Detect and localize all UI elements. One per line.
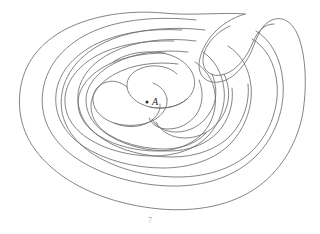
center-label-a: A — [151, 96, 159, 107]
labyrinth-figure: A 7 — [0, 0, 320, 234]
center-point-dot — [146, 101, 149, 104]
labyrinth-drawing: A 7 — [0, 0, 320, 234]
figure-caption: 7 — [148, 215, 153, 225]
figure-background — [0, 0, 320, 234]
